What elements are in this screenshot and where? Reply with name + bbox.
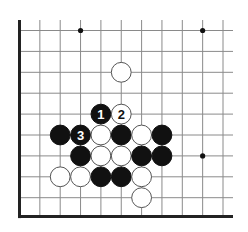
black-stone: [71, 146, 91, 166]
star-point-icon: [200, 153, 205, 158]
white-stone: [111, 146, 131, 166]
black-stone: [132, 146, 152, 166]
black-stone: [152, 146, 172, 166]
white-stone-icon: [111, 146, 131, 166]
white-stone-icon: [71, 167, 91, 187]
black-stone: [152, 125, 172, 145]
white-stone: [132, 188, 152, 208]
move-number-label: 1: [97, 107, 104, 122]
move-number-label: 3: [77, 128, 84, 143]
white-stone-icon: [50, 167, 70, 187]
white-stone-move-2: 2: [111, 104, 131, 124]
white-stone-icon: [91, 125, 111, 145]
move-number-label: 2: [118, 107, 125, 122]
black-stone-icon: [91, 167, 111, 187]
black-stone-icon: [50, 125, 70, 145]
black-stone-icon: [111, 125, 131, 145]
black-stone: [111, 125, 131, 145]
black-stone-icon: [152, 125, 172, 145]
white-stone-icon: [132, 167, 152, 187]
white-stone-icon: [132, 125, 152, 145]
black-stone: [91, 167, 111, 187]
white-stone: [50, 167, 70, 187]
white-stone: [91, 125, 111, 145]
black-stone: [111, 167, 131, 187]
white-stone: [132, 167, 152, 187]
white-stone-icon: [132, 188, 152, 208]
white-stone-icon: [111, 62, 131, 82]
white-stone: [91, 146, 111, 166]
black-stone-move-1: 1: [91, 104, 111, 124]
white-stone: [132, 125, 152, 145]
black-stone-icon: [111, 167, 131, 187]
white-stone: [71, 167, 91, 187]
white-stone: [111, 62, 131, 82]
go-board-diagram: 123: [0, 0, 248, 232]
stones-layer: 123: [50, 62, 172, 207]
star-point-icon: [200, 28, 205, 33]
white-stone-icon: [91, 146, 111, 166]
black-stone-icon: [132, 146, 152, 166]
black-stone-icon: [71, 146, 91, 166]
star-point-icon: [78, 28, 83, 33]
black-stone-icon: [152, 146, 172, 166]
black-stone-move-3: 3: [71, 125, 91, 145]
black-stone: [50, 125, 70, 145]
